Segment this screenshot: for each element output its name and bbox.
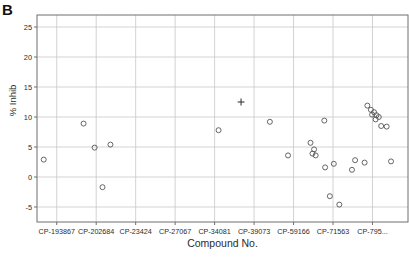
svg-text:-5: -5: [25, 203, 32, 212]
svg-text:CP-39073: CP-39073: [238, 227, 270, 236]
svg-text:20: 20: [24, 53, 32, 62]
figure-panel-b: B % Inhib Compound No. -50510152025 CP-1…: [0, 0, 409, 257]
data-markers: [41, 99, 393, 208]
svg-text:CP-193867: CP-193867: [39, 227, 75, 236]
y-axis-ticks: -50510152025: [24, 23, 37, 212]
svg-text:15: 15: [24, 83, 32, 92]
svg-text:CP-59166: CP-59166: [277, 227, 309, 236]
svg-text:CP-27067: CP-27067: [159, 227, 191, 236]
svg-text:10: 10: [24, 113, 32, 122]
svg-text:5: 5: [28, 143, 32, 152]
svg-text:CP-795...: CP-795...: [357, 227, 387, 236]
svg-text:25: 25: [24, 23, 32, 32]
svg-text:CP-202684: CP-202684: [78, 227, 114, 236]
svg-text:0: 0: [28, 173, 32, 182]
plot-frame: [37, 15, 408, 222]
x-axis-ticks: CP-193867CP-202684CP-23424CP-27067CP-340…: [39, 222, 388, 236]
scatter-plot: -50510152025 CP-193867CP-202684CP-23424C…: [0, 0, 409, 257]
svg-text:CP-23424: CP-23424: [119, 227, 151, 236]
svg-text:CP-34081: CP-34081: [198, 227, 230, 236]
grid-lines: [37, 15, 408, 222]
svg-text:CP-71563: CP-71563: [317, 227, 349, 236]
